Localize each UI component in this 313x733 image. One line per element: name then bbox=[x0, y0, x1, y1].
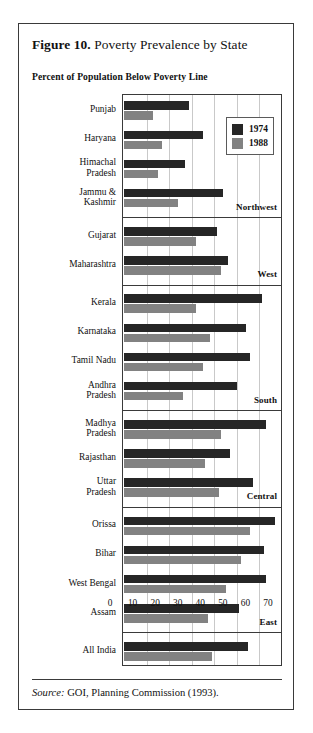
legend-label: 1974 bbox=[249, 124, 268, 134]
category-label: Andhra Pradesh bbox=[86, 380, 116, 401]
chart-subtitle: Percent of Population Below Poverty Line bbox=[32, 71, 284, 83]
source-note: Source: GOI, Planning Commission (1993). bbox=[32, 686, 282, 700]
category-label: Haryana bbox=[84, 133, 116, 144]
bar-1974 bbox=[124, 353, 250, 362]
legend-swatch-icon bbox=[232, 138, 243, 149]
region-separator bbox=[123, 632, 281, 633]
bar-1974 bbox=[124, 420, 266, 429]
bar-1974 bbox=[124, 478, 253, 487]
category-label: Tamil Nadu bbox=[72, 355, 116, 366]
bar-1988 bbox=[124, 652, 212, 661]
bar-1988 bbox=[124, 363, 203, 372]
bar-1974 bbox=[124, 101, 189, 110]
category-label: All India bbox=[82, 645, 116, 656]
category-labels-column: PunjabHaryanaHimachal PradeshJammu & Kas… bbox=[32, 94, 120, 666]
legend-label: 1988 bbox=[249, 138, 268, 148]
bar-1988 bbox=[124, 430, 221, 439]
bar-1974 bbox=[124, 227, 217, 236]
x-axis-tick-label: 10 bbox=[128, 598, 137, 608]
category-label: Gujarat bbox=[88, 230, 116, 241]
plot-region: NorthwestWestSouthCentralEast19741988 bbox=[122, 94, 282, 666]
bar-1974 bbox=[124, 575, 266, 584]
bar-1988 bbox=[124, 392, 183, 401]
bar-1988 bbox=[124, 488, 219, 497]
bar-1974 bbox=[124, 294, 262, 303]
x-axis-tick-label: 20 bbox=[150, 598, 159, 608]
figure-number: Figure 10. bbox=[32, 37, 91, 52]
category-label: Karnataka bbox=[77, 326, 116, 337]
bar-1974 bbox=[124, 131, 203, 140]
figure-title: Figure 10. Poverty Prevalence by State bbox=[32, 37, 284, 53]
bar-1988 bbox=[124, 266, 221, 275]
bar-1988 bbox=[124, 304, 196, 313]
chart-legend: 19741988 bbox=[226, 117, 274, 155]
legend-entry: 1988 bbox=[232, 136, 268, 150]
region-label-south: South bbox=[254, 395, 277, 405]
category-label: West Bengal bbox=[69, 578, 116, 589]
bar-1974 bbox=[124, 324, 246, 333]
category-label: Kerala bbox=[91, 297, 116, 308]
source-label: Source: bbox=[32, 687, 65, 698]
category-label: Bihar bbox=[95, 548, 116, 559]
bar-1974 bbox=[124, 160, 185, 169]
figure-card: Figure 10. Poverty Prevalence by State P… bbox=[18, 23, 294, 710]
source-text: GOI, Planning Commission (1993). bbox=[65, 687, 219, 698]
region-separator bbox=[123, 410, 281, 411]
category-label: Himachal Pradesh bbox=[80, 157, 116, 178]
bar-1988 bbox=[124, 556, 241, 565]
x-axis-tick-label: 0 bbox=[108, 598, 113, 608]
region-label-central: Central bbox=[247, 491, 277, 501]
bar-1974 bbox=[124, 449, 230, 458]
category-label: Maharashtra bbox=[69, 259, 116, 270]
category-label: Orissa bbox=[92, 519, 116, 530]
bar-1988 bbox=[124, 199, 178, 208]
category-label: Punjab bbox=[90, 104, 116, 115]
bar-1988 bbox=[124, 459, 205, 468]
bar-1974 bbox=[124, 382, 237, 391]
bar-1988 bbox=[124, 585, 226, 594]
bar-1974 bbox=[124, 189, 223, 198]
bar-1988 bbox=[124, 334, 210, 343]
x-axis-tick-label: 40 bbox=[196, 598, 205, 608]
category-label: Uttar Pradesh bbox=[86, 476, 116, 497]
region-label-east: East bbox=[260, 617, 277, 627]
x-axis-tick-label: 50 bbox=[218, 598, 227, 608]
x-axis-tick-label: 60 bbox=[241, 598, 250, 608]
region-label-west: West bbox=[258, 269, 277, 279]
bar-1988 bbox=[124, 527, 250, 536]
region-label-northwest: Northwest bbox=[236, 202, 277, 212]
region-separator bbox=[123, 507, 281, 508]
category-label: Jammu & Kashmir bbox=[79, 187, 116, 208]
category-label: Madhya Pradesh bbox=[85, 418, 116, 439]
category-label: Rajasthan bbox=[79, 452, 116, 463]
region-separator bbox=[123, 285, 281, 286]
bar-1974 bbox=[124, 256, 228, 265]
region-separator bbox=[123, 217, 281, 218]
legend-swatch-icon bbox=[232, 124, 243, 135]
x-axis-tick-label: 30 bbox=[173, 598, 182, 608]
figure-title-text: Poverty Prevalence by State bbox=[91, 37, 248, 52]
bar-1988 bbox=[124, 614, 208, 623]
source-divider bbox=[32, 679, 282, 680]
bar-1974 bbox=[124, 546, 264, 555]
bar-1988 bbox=[124, 237, 196, 246]
bar-1974 bbox=[124, 642, 248, 651]
legend-entry: 1974 bbox=[232, 122, 268, 136]
bar-1988 bbox=[124, 111, 153, 120]
bar-1988 bbox=[124, 141, 162, 150]
chart-area: PunjabHaryanaHimachal PradeshJammu & Kas… bbox=[32, 94, 282, 672]
x-axis: 010203040506070 bbox=[109, 598, 269, 614]
bar-1988 bbox=[124, 170, 158, 179]
x-axis-tick-label: 70 bbox=[263, 598, 272, 608]
bar-1974 bbox=[124, 517, 275, 526]
